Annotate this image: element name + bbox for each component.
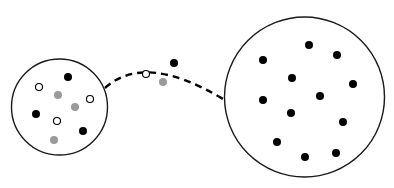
gray-dot — [71, 103, 79, 111]
gray-dot — [50, 136, 58, 144]
gray-dot — [159, 78, 167, 86]
black-dot — [332, 149, 340, 157]
black-dot — [339, 118, 347, 126]
black-dot — [32, 110, 40, 118]
black-dot — [259, 56, 267, 64]
large-cluster-dots — [259, 41, 357, 161]
large-cluster-circle — [225, 17, 385, 177]
black-dot — [79, 127, 87, 135]
black-dot — [287, 109, 295, 117]
open-dot — [143, 71, 150, 78]
black-dot — [333, 51, 341, 59]
small-cluster-dots — [32, 73, 94, 144]
gray-dot — [54, 91, 62, 99]
black-dot — [349, 80, 357, 88]
small-cluster-circle — [12, 59, 108, 155]
open-dot — [36, 84, 43, 91]
black-dot — [301, 153, 309, 161]
open-dot — [87, 96, 94, 103]
cluster-migration-diagram — [0, 0, 394, 188]
black-dot — [259, 96, 267, 104]
connector-dots — [143, 59, 179, 86]
diagram-canvas — [0, 0, 394, 188]
black-dot — [288, 74, 296, 82]
black-dot — [64, 73, 72, 81]
black-dot — [305, 41, 313, 49]
black-dot — [170, 59, 178, 67]
black-dot — [273, 138, 281, 146]
black-dot — [316, 92, 324, 100]
open-dot — [54, 118, 61, 125]
